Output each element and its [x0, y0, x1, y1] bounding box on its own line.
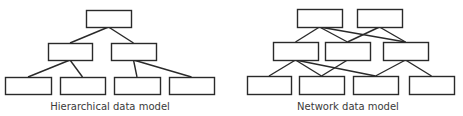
network-node-box: [354, 77, 399, 95]
network-edge: [269, 60, 296, 76]
hierarchical-node-box: [49, 44, 93, 61]
network-edge: [376, 60, 406, 76]
hierarchical-edge: [28, 60, 70, 77]
hierarchical-node-box: [87, 11, 132, 28]
network-node-box: [248, 77, 292, 95]
network-node-box: [384, 43, 429, 61]
network-edge: [406, 60, 432, 76]
network-caption: Network data model: [297, 101, 399, 112]
network-node-box: [298, 10, 343, 28]
hierarchical-node-box: [61, 78, 106, 95]
network-edge: [296, 27, 320, 42]
hierarchical-node-box: [115, 78, 161, 95]
network-node-box: [300, 77, 345, 95]
hierarchical-caption: Hierarchical data model: [50, 101, 170, 112]
hierarchical-edge: [109, 27, 134, 43]
hierarchical-node-box: [170, 78, 215, 95]
network-edge: [348, 27, 380, 42]
network-node-box: [274, 43, 319, 61]
network-edge: [322, 60, 348, 76]
hierarchical-edge: [134, 60, 138, 77]
network-nodes: [248, 10, 455, 95]
diagram-canvas: [0, 0, 463, 116]
network-node-box: [410, 77, 455, 95]
network-node-box: [358, 10, 403, 28]
hierarchical-nodes: [6, 11, 215, 95]
hierarchical-edge: [70, 60, 83, 77]
hierarchical-node-box: [6, 78, 52, 95]
hierarchical-node-box: [112, 44, 157, 61]
hierarchical-edge: [70, 27, 109, 43]
network-node-box: [326, 43, 371, 61]
hierarchical-edge: [134, 60, 192, 77]
